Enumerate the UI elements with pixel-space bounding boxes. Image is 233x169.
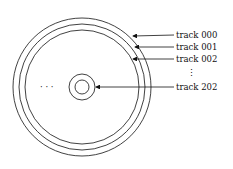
vertical-ellipsis: ⋮ <box>187 68 196 78</box>
track-000-arrow <box>133 35 174 36</box>
spindle-circle <box>75 80 89 94</box>
label-track-202: track 202 <box>176 82 217 92</box>
horizontal-ellipsis: · · · <box>40 82 54 92</box>
label-track-002: track 002 <box>176 54 217 64</box>
label-track-000: track 000 <box>176 30 217 40</box>
label-track-001: track 001 <box>176 42 217 52</box>
track-202-outer-circle <box>69 74 95 100</box>
disk-diagram: track 000 track 001 track 002 ⋮ track 20… <box>0 0 233 169</box>
